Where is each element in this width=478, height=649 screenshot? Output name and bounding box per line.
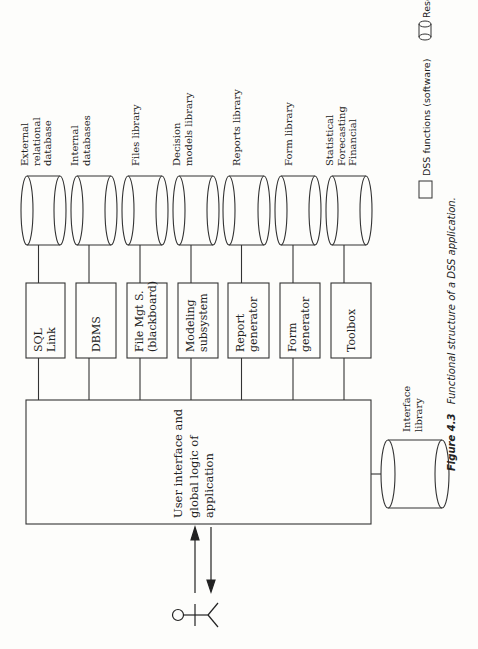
- resource-label-external-relational-database: Externalrelationaldatabase: [19, 117, 53, 166]
- resource-cylinder-decision-models-library: [173, 176, 219, 245]
- resource-cylinder-internal-databases: [71, 176, 117, 245]
- resource-label-statistical-forecasting-financial: StatisticalForecastingFinancial: [324, 106, 358, 166]
- function-label-sql-link: SQLLink: [32, 327, 58, 352]
- legend-function-swatch: [419, 181, 432, 198]
- user-interaction-arrows: [191, 527, 215, 593]
- resource-label-form-library: Form library: [283, 102, 294, 166]
- legend-resources-label: Resources (user defined): [421, 0, 432, 18]
- resource-label-files-library: Files library: [130, 104, 141, 166]
- function-label-modeling-subsystem: Modelingsubsystem: [184, 293, 210, 352]
- legend-functions-label: DSS functions (software): [421, 59, 432, 176]
- user-actor-icon: [173, 603, 219, 627]
- resource-label-reports-library: Reports library: [231, 89, 242, 166]
- resource-cylinder-form-library: [275, 176, 321, 245]
- resource-cylinder-external-relational-database: [21, 176, 66, 245]
- interface-library-cylinder: [371, 440, 449, 508]
- resource-cylinder-reports-library: [223, 176, 270, 245]
- function-label-form-generator: Formgenerator: [286, 296, 312, 352]
- function-label-toolbox: Toolbox: [345, 308, 358, 352]
- resource-cylinder-files-library: [122, 176, 168, 245]
- legend-resource-swatch: [419, 21, 431, 40]
- dss-diagram: SQLLinkExternalrelationaldatabaseDBMSInt…: [0, 0, 478, 649]
- function-label-dbms: DBMS: [90, 316, 103, 352]
- figure-caption: Figure 4.3 Functional structure of a DSS…: [446, 197, 457, 471]
- function-label-report-generator: Reportgenerator: [234, 296, 260, 352]
- resource-cylinder-statistical-forecasting-financial: [326, 176, 372, 245]
- interface-library-label: Interface library: [401, 383, 424, 432]
- function-label-file-mgt: File Mgt S.(blackboard): [133, 281, 159, 352]
- main-box-label: User interface and global logic of appli…: [171, 405, 216, 518]
- resource-label-internal-databases: Internaldatabases: [69, 115, 92, 166]
- resource-label-decision-models-library: Decisionmodels library: [171, 92, 194, 166]
